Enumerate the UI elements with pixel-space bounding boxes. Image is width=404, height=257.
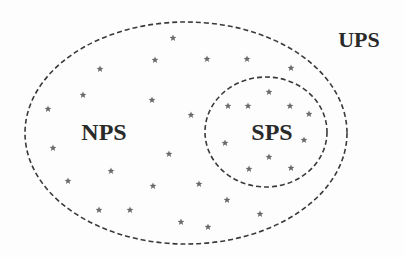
star-point-icon [65,177,72,184]
star-point-icon [246,165,253,172]
star-point-icon [204,55,211,62]
star-point-icon [150,182,157,189]
star-point-icon [288,164,295,171]
star-point-icon [244,55,251,62]
star-point-icon [97,65,104,72]
star-point-icon [127,206,134,213]
star-point-icon [222,139,229,146]
star-point-icon [166,150,173,157]
diagram-canvas: UPS NPS SPS [0,0,404,257]
nested-sets-diagram: UPS NPS SPS [0,0,404,257]
star-point-icon [188,111,195,118]
star-point-icon [50,144,57,151]
star-point-icon [287,102,294,109]
star-point-icon [152,56,159,63]
star-point-icon [178,218,185,225]
star-point-icon [257,210,264,217]
star-point-icon [149,96,156,103]
star-point-icon [301,136,308,143]
star-point-icon [196,180,203,187]
nps-boundary [25,22,347,244]
star-point-icon [80,91,87,98]
star-point-icon [170,34,177,41]
star-point-icon [45,105,52,112]
star-point-icon [266,88,273,95]
nps-label: NPS [81,119,126,145]
star-point-icon [96,206,103,213]
star-point-icon [205,223,212,230]
star-point-icon [225,102,232,109]
star-point-icon [306,110,313,117]
star-point-icon [266,153,273,160]
star-point-icon [224,196,231,203]
star-point-icon [245,102,252,109]
sps-label: SPS [251,119,292,145]
star-point-icon [288,64,295,71]
ups-label: UPS [338,27,380,52]
star-point-icon [108,167,115,174]
